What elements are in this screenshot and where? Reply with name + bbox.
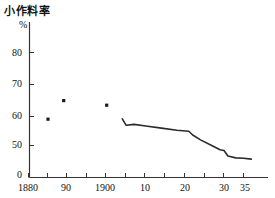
x-axis-ticks [29,173,244,178]
y-axis-ticks [30,53,35,146]
scatter-point [105,104,108,107]
plot-area [0,0,275,198]
scatter-point [62,99,65,102]
scatter-point [46,118,49,121]
tenancy-rate-line [122,119,251,159]
chart-figure: 小作料率 % 80 70 60 50 0 1880 90 1900 10 20 … [0,0,275,198]
scatter-points-group [46,99,108,121]
